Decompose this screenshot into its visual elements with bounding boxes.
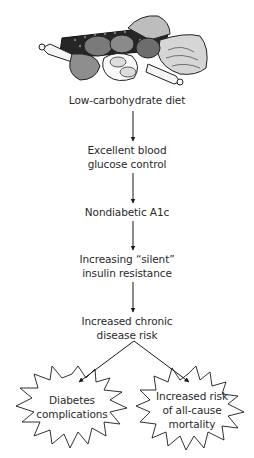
arrow-chronic-to-mortality [134, 341, 189, 382]
outcome-mortality: Increased risk of all-cause mortality [140, 389, 244, 431]
outcome-complications: Diabetes complications [20, 393, 124, 421]
arrow-chronic-to-complications [79, 341, 134, 382]
outcome-text: of all-cause [140, 403, 244, 417]
outcome-text: Increased risk [140, 389, 244, 403]
outcome-text: Diabetes [20, 393, 124, 407]
outcome-text: mortality [140, 417, 244, 431]
outcome-text: complications [20, 407, 124, 421]
